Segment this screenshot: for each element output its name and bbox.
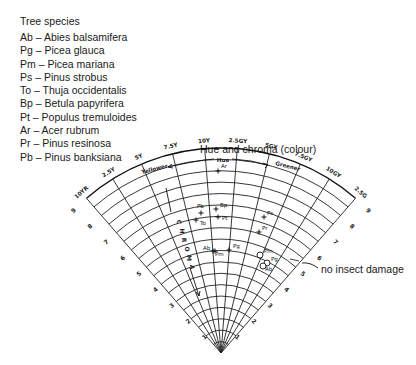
chroma-tick-label-right: 5 — [299, 269, 307, 277]
hue-tick-label: 5Y — [134, 152, 145, 161]
chroma-tick-label-right: 7 — [332, 238, 340, 246]
yellower-label: Yellower — [140, 163, 169, 176]
chroma-line-top — [166, 188, 171, 212]
point-label: Ar — [221, 163, 228, 169]
chroma-axis-letter: O — [184, 246, 191, 251]
plus-marker — [262, 215, 267, 220]
hue-axis-label: Hue — [217, 157, 230, 163]
chroma-arc — [199, 319, 244, 327]
point-label: Pg — [233, 243, 240, 250]
point-label: Bp — [220, 202, 228, 209]
chroma-axis-letter: R — [181, 238, 188, 243]
hue-tick-label: 2.5G — [353, 185, 368, 199]
chroma-axis-letter: H — [179, 228, 186, 233]
point-label: Ab — [265, 266, 273, 272]
point-label: Pm — [215, 251, 224, 257]
hue-spoke — [142, 164, 221, 353]
chroma-arc — [124, 205, 318, 241]
hue-spoke — [221, 164, 300, 353]
chroma-arc — [206, 330, 236, 336]
plus-marker — [199, 211, 204, 216]
point-label: Ab — [203, 245, 211, 251]
plus-marker — [216, 215, 221, 220]
chroma-tick-label-left: 9 — [69, 206, 77, 214]
chroma-arc — [176, 285, 266, 302]
chroma-tick-label-left: 5 — [135, 269, 143, 277]
no-insect-damage-note: no insect damage — [321, 263, 404, 275]
point-label: Ps — [267, 210, 273, 216]
annotation-leader — [302, 263, 318, 268]
hue-spoke — [113, 179, 221, 353]
hue-chroma-fan-diagram: Hue and chroma (colour) 10YR2.5Y5Y7.5Y10… — [0, 0, 416, 365]
chroma-tick-label-right: 9 — [365, 206, 373, 214]
chroma-arc — [169, 273, 274, 293]
point-label: Pr — [262, 225, 268, 231]
greener-label: Greener — [275, 160, 301, 172]
hue-tick-label: 7.5Y — [163, 141, 179, 150]
hue-spoke — [221, 179, 329, 353]
chroma-axis-letter: C — [176, 220, 183, 225]
chroma-arc — [116, 194, 325, 233]
chroma-tick-label-left: 1 — [200, 333, 208, 341]
chroma-axis-letter: A — [189, 265, 196, 270]
chroma-tick-label-right: 4 — [283, 285, 291, 293]
plus-marker — [216, 169, 221, 174]
annotation-arrow — [290, 259, 299, 261]
chroma-tick-label-left: 7 — [102, 238, 110, 246]
plus-marker — [227, 248, 232, 253]
plus-marker — [214, 207, 219, 212]
point-label: Pt — [222, 215, 228, 221]
chroma-tick-label-left: 6 — [118, 254, 126, 262]
point-label: Pm — [264, 248, 273, 254]
chroma-tick-label-right: 8 — [349, 222, 357, 230]
chroma-axis-letter: M — [186, 255, 193, 261]
chroma-tick-label-right: 3 — [267, 301, 275, 309]
point-label: Pb — [197, 203, 204, 209]
point-label: Pg — [271, 256, 278, 263]
chroma-arc — [184, 296, 259, 310]
chroma-arc — [191, 307, 251, 318]
chroma-arc — [87, 148, 356, 198]
chroma-tick-label-right: 6 — [316, 254, 324, 262]
chroma-tick-label-left: 8 — [86, 222, 94, 230]
hue-tick-label: 10Y — [198, 137, 211, 144]
chroma-tick-label-right: 1 — [234, 333, 242, 341]
chroma-tick-label-left: 3 — [168, 301, 176, 309]
point-label: To — [199, 220, 206, 226]
chroma-tick-label-left: 4 — [151, 285, 159, 293]
circle-marker — [257, 252, 263, 258]
hue-tick-label: 2.5Y — [101, 165, 117, 178]
